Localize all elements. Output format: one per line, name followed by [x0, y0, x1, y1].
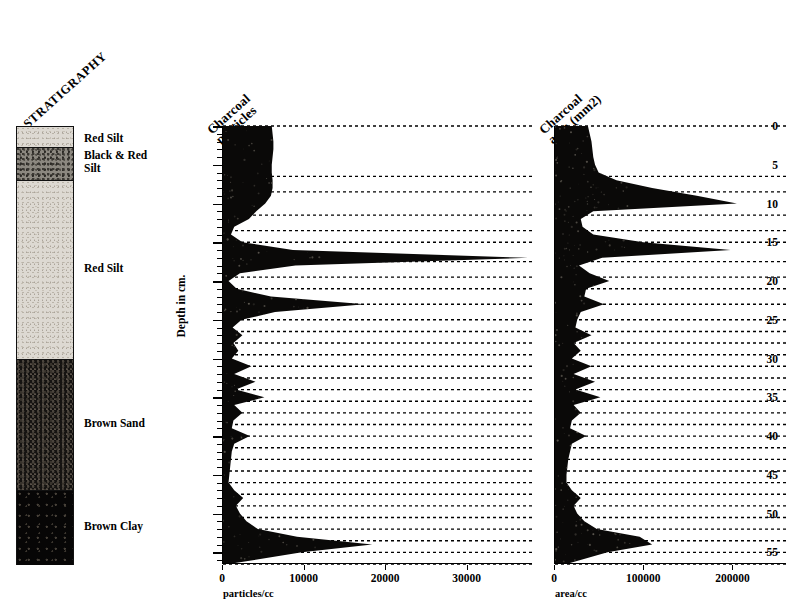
- x-tick-label: 20000: [371, 572, 400, 584]
- depth-major-tick: [213, 359, 222, 361]
- depth-tick-label: 0: [772, 121, 778, 132]
- depth-tick-label: 45: [767, 470, 779, 481]
- figure-canvas: STRATIGRAPHY Red SiltBlack & Red SiltRed…: [0, 0, 791, 616]
- depth-major-tick: [213, 436, 222, 438]
- strat-label-red-silt: Red Silt: [84, 132, 123, 145]
- strat-label-black-red-silt: Black & Red Silt: [84, 149, 147, 175]
- depth-major-tick: [213, 165, 222, 167]
- x-tick-label: 0: [551, 572, 557, 584]
- depth-tick-label: 50: [767, 509, 779, 520]
- area-x-axis-line: [554, 563, 786, 564]
- strat-layer-black-red-silt: [17, 148, 73, 181]
- depth-major-tick: [213, 475, 222, 477]
- x-tick-label: 10000: [289, 572, 318, 584]
- stratigraphy-title: STRATIGRAPHY: [21, 50, 109, 131]
- depth-axis-title: Depth in cm.: [175, 275, 187, 338]
- strat-layer-brown-clay: [17, 491, 73, 565]
- depth-major-tick: [213, 242, 222, 244]
- x-tick: [467, 565, 468, 570]
- particles-y-axis-line: [222, 126, 223, 564]
- depth-tick-label: 5: [772, 160, 778, 171]
- strat-layer-brown-sand: [17, 360, 73, 492]
- depth-tick-label: 35: [767, 392, 779, 403]
- x-tick-label: 200000: [715, 572, 750, 584]
- x-axis-unit-label: particles/cc: [223, 588, 274, 599]
- depth-major-tick: [213, 552, 222, 554]
- depth-major-tick: [213, 281, 222, 283]
- x-tick: [643, 565, 644, 570]
- strat-layer-red-silt: [17, 127, 73, 148]
- depth-tick-label: 55: [767, 547, 779, 558]
- particles-x-axis: 0100002000030000particles/cc: [222, 565, 532, 605]
- x-axis-unit-label: area/cc: [555, 588, 587, 599]
- x-tick-label: 30000: [452, 572, 481, 584]
- stratigraphy-column: [16, 126, 74, 565]
- depth-major-tick: [213, 320, 222, 322]
- depth-major-tick: [213, 204, 222, 206]
- depth-major-tick: [213, 397, 222, 399]
- depth-tick-label: 15: [767, 237, 779, 248]
- depth-major-tick: [213, 514, 222, 516]
- depth-axis: [213, 126, 222, 564]
- x-tick: [304, 565, 305, 570]
- x-tick-label: 100000: [626, 572, 661, 584]
- depth-tick-label: 25: [767, 315, 779, 326]
- depth-tick-label: 20: [767, 276, 779, 287]
- depth-tick-label: 30: [767, 354, 779, 365]
- strat-label-brown-sand: Brown Sand: [84, 417, 145, 430]
- chart-area: [554, 126, 786, 564]
- area-area-plot: [554, 126, 786, 564]
- depth-tick-label: 10: [767, 199, 779, 210]
- area-x-axis: 0100000200000area/cc: [554, 565, 786, 605]
- strat-layer-red-silt-2: [17, 181, 73, 359]
- strat-label-red-silt-2: Red Silt: [84, 262, 123, 275]
- x-tick: [732, 565, 733, 570]
- depth-tick-label: 40: [767, 431, 779, 442]
- x-tick: [554, 565, 555, 570]
- particles-area-plot: [222, 126, 532, 564]
- x-tick: [222, 565, 223, 570]
- chart-particles: [222, 126, 532, 564]
- particles-x-axis-line: [222, 563, 532, 564]
- strat-label-brown-clay: Brown Clay: [84, 520, 143, 533]
- x-tick: [385, 565, 386, 570]
- x-tick-label: 0: [219, 572, 225, 584]
- area-y-axis-line: [554, 126, 555, 564]
